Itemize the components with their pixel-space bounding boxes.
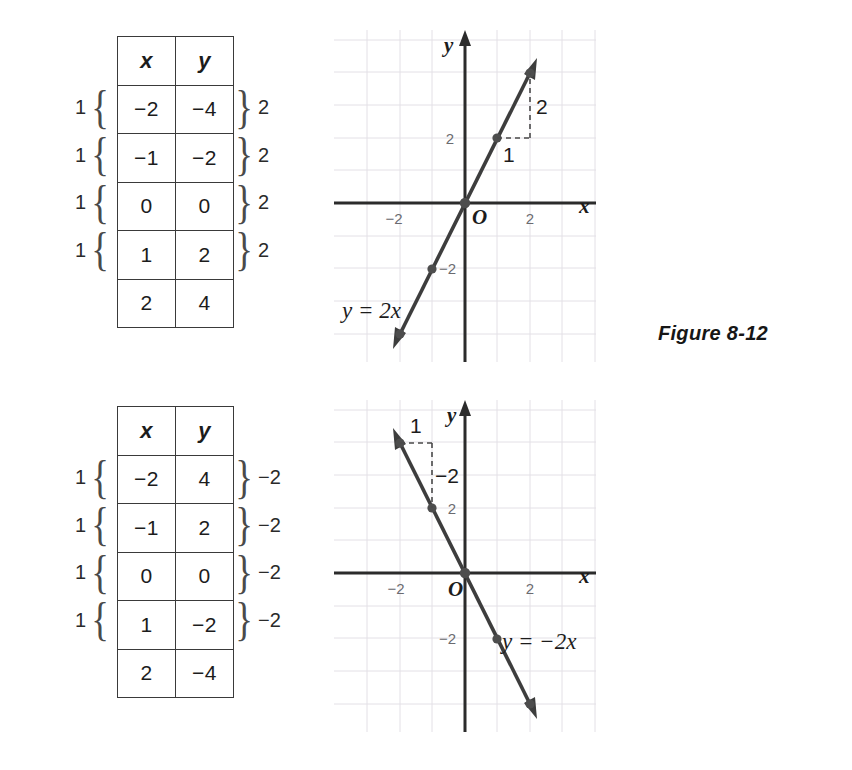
table-cell-y: −4 [176, 649, 234, 698]
origin-label: O [448, 577, 463, 601]
axes [334, 400, 596, 732]
x-tick-label-pos2: 2 [526, 210, 534, 227]
y-difference-brace: } −2 [233, 597, 284, 645]
table-header-y: y [176, 37, 234, 86]
table-row: −2 4 [118, 455, 234, 504]
graph-svg: 1 −2 −2 2 2 −2 O x y y = −2x [334, 400, 596, 732]
table-row: 1 −2 [118, 601, 234, 650]
figure-8-12: x y −2 −4 −1 −2 0 0 1 2 [0, 0, 852, 385]
table-header-x: x [118, 407, 176, 456]
y-tick-label-pos2: 2 [446, 130, 454, 147]
table-cell-x: −1 [118, 134, 176, 183]
x-difference-label: 1 [72, 466, 89, 489]
x-difference-brace: 1 { [72, 502, 111, 550]
table-row: 0 0 [118, 182, 234, 231]
table-cell-x: 2 [118, 649, 176, 698]
figure-8-13: x y −2 4 −1 2 0 0 1 −2 [0, 385, 852, 770]
slope-rise-label: −2 [435, 464, 459, 487]
slope-run-label: 1 [410, 414, 422, 437]
table-cell-x: 1 [118, 601, 176, 650]
table-cell-y: 0 [176, 552, 234, 601]
left-curly-brace-icon: { [91, 555, 109, 591]
x-difference-brace: 1 { [72, 132, 111, 180]
table-header-x: x [118, 37, 176, 86]
y-difference-label: 2 [255, 144, 272, 167]
table-cell-x: −1 [118, 504, 176, 553]
left-curly-brace-icon: { [91, 602, 109, 638]
table-cell-x: 0 [118, 182, 176, 231]
x-axis-label: x [578, 194, 590, 218]
origin-label: O [472, 205, 487, 229]
x-difference-label: 1 [72, 144, 89, 167]
table-row: −2 −4 [118, 85, 234, 134]
table-cell-x: −2 [118, 85, 176, 134]
equation-label: y = −2x [500, 629, 577, 654]
table-cell-y: 4 [176, 455, 234, 504]
right-curly-brace-icon: } [235, 185, 253, 221]
data-point [395, 329, 404, 338]
y-tick-label-neg2: −2 [439, 630, 456, 647]
graph-svg: 1 2 −2 2 2 −2 O x y y = 2x [334, 30, 596, 362]
coordinate-graph-8-13: 1 −2 −2 2 2 −2 O x y y = −2x [334, 400, 596, 732]
y-difference-brace: } 2 [233, 84, 272, 132]
y-tick-label-pos2: 2 [448, 500, 456, 517]
value-table: x y −2 4 −1 2 0 0 1 −2 [117, 406, 234, 698]
equation-label: y = 2x [340, 298, 402, 323]
value-table-container: x y −2 −4 −1 −2 0 0 1 2 [117, 36, 234, 328]
data-point [460, 198, 470, 208]
table-cell-x: 2 [118, 279, 176, 328]
x-tick-label-pos2: 2 [526, 580, 534, 597]
table-cell-x: 0 [118, 552, 176, 601]
right-curly-brace-icon: } [235, 137, 253, 173]
table-cell-x: −2 [118, 455, 176, 504]
data-point [492, 634, 501, 643]
y-difference-label: 2 [255, 96, 272, 119]
slope-run-label: 1 [503, 143, 515, 166]
right-curly-brace-icon: } [235, 507, 253, 543]
table-row: 1 2 [118, 231, 234, 280]
table-cell-x: 1 [118, 231, 176, 280]
x-difference-brace: 1 { [72, 227, 111, 275]
x-difference-brace: 1 { [72, 549, 111, 597]
y-difference-label: −2 [255, 466, 284, 489]
right-curly-brace-icon: } [235, 90, 253, 126]
left-curly-brace-icon: { [91, 460, 109, 496]
left-curly-brace-icon: { [91, 507, 109, 543]
y-axis-label: y [444, 403, 457, 427]
x-difference-label: 1 [72, 239, 89, 262]
table-row: 2 −4 [118, 649, 234, 698]
y-difference-brace: } −2 [233, 454, 284, 502]
y-difference-label: −2 [255, 514, 284, 537]
table-cell-y: 2 [176, 231, 234, 280]
y-axis-arrowhead [459, 400, 471, 416]
x-difference-brace: 1 { [72, 454, 111, 502]
y-difference-label: 2 [255, 191, 272, 214]
x-axis-label: x [578, 564, 590, 588]
data-point [427, 264, 436, 273]
table-header-row: x y [118, 407, 234, 456]
y-difference-label: −2 [255, 561, 284, 584]
table-header-y: y [176, 407, 234, 456]
figure-page: x y −2 −4 −1 −2 0 0 1 2 [0, 0, 852, 770]
x-difference-brace: 1 { [72, 597, 111, 645]
y-axis-label: y [441, 33, 454, 57]
table-header-row: x y [118, 37, 234, 86]
x-difference-label: 1 [72, 514, 89, 537]
x-tick-label-neg2: −2 [387, 580, 404, 597]
right-curly-brace-icon: } [235, 232, 253, 268]
right-curly-brace-icon: } [235, 602, 253, 638]
right-curly-brace-icon: } [235, 555, 253, 591]
figure-caption: Figure 8-12 [658, 322, 768, 345]
x-difference-label: 1 [72, 96, 89, 119]
left-curly-brace-icon: { [91, 137, 109, 173]
table-row: 2 4 [118, 279, 234, 328]
table-row: 0 0 [118, 552, 234, 601]
x-tick-label-neg2: −2 [385, 210, 402, 227]
y-axis-arrowhead [459, 30, 471, 46]
table-cell-y: 4 [176, 279, 234, 328]
x-difference-label: 1 [72, 561, 89, 584]
x-difference-label: 1 [72, 191, 89, 214]
table-row: −1 2 [118, 504, 234, 553]
left-curly-brace-icon: { [91, 185, 109, 221]
y-difference-label: −2 [255, 609, 284, 632]
